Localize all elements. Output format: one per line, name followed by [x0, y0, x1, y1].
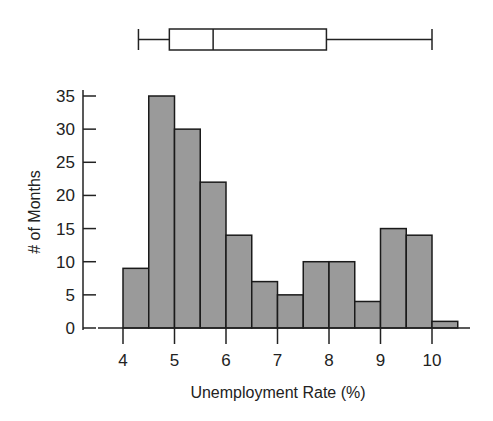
- x-tick-label: 7: [273, 351, 282, 370]
- histogram-chart: 05101520253035 45678910 Unemployment Rat…: [0, 0, 493, 421]
- y-tick-label: 10: [56, 253, 75, 272]
- histogram-bar: [381, 229, 407, 328]
- histogram-bar: [355, 301, 381, 328]
- y-axis: 05101520253035: [56, 87, 96, 338]
- histogram-bar: [226, 235, 252, 328]
- y-tick-label: 0: [66, 319, 75, 338]
- x-tick-label: 9: [376, 351, 385, 370]
- histogram-bar: [149, 96, 175, 328]
- histogram-bars: [123, 96, 458, 328]
- x-axis-title: Unemployment Rate (%): [190, 384, 365, 401]
- y-tick-label: 25: [56, 153, 75, 172]
- y-axis-title: # of Months: [26, 170, 43, 254]
- x-tick-label: 6: [221, 351, 230, 370]
- y-tick-label: 30: [56, 120, 75, 139]
- y-tick-label: 5: [66, 286, 75, 305]
- histogram-bar: [432, 321, 458, 328]
- x-tick-label: 5: [170, 351, 179, 370]
- histogram-bar: [278, 295, 304, 328]
- histogram-bar: [123, 268, 149, 328]
- histogram-bar: [200, 182, 226, 328]
- histogram-bar: [252, 282, 278, 328]
- y-tick-label: 20: [56, 186, 75, 205]
- x-tick-label: 4: [118, 351, 127, 370]
- histogram-bar: [175, 129, 201, 328]
- y-tick-label: 15: [56, 220, 75, 239]
- x-axis: 45678910: [98, 328, 470, 370]
- boxplot-box: [169, 29, 326, 50]
- x-tick-label: 8: [324, 351, 333, 370]
- histogram-bar: [303, 262, 329, 328]
- histogram-bar: [406, 235, 432, 328]
- x-tick-label: 10: [423, 351, 442, 370]
- y-tick-label: 35: [56, 87, 75, 106]
- histogram-bar: [329, 262, 355, 328]
- boxplot: [138, 29, 432, 50]
